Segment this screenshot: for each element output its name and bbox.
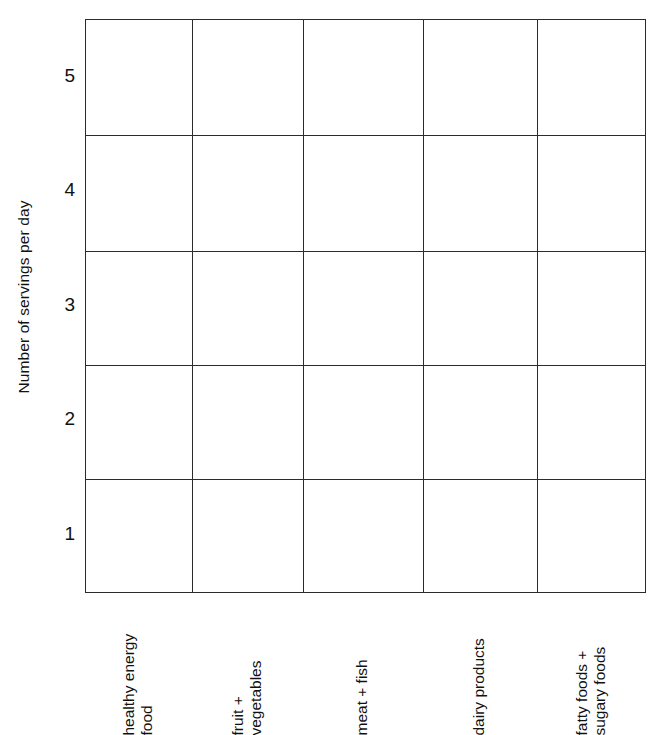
x-category-fruit-vegetables: fruit + vegetables: [191, 594, 302, 735]
x-axis-category-labels: healthy energy food fruit + vegetables m…: [85, 594, 646, 735]
y-axis-title: Number of servings per day: [0, 0, 46, 594]
x-category-line: dairy products: [470, 638, 488, 735]
plot-cell[interactable]: [537, 251, 647, 365]
plot-cell[interactable]: [423, 365, 537, 479]
y-tick-label-3: 3: [51, 295, 75, 314]
x-category-healthy-energy-food: healthy energy food: [85, 594, 191, 735]
y-axis-tick-labels: 5 4 3 2 1: [46, 19, 85, 593]
plot-cell[interactable]: [537, 135, 647, 251]
plot-cell[interactable]: [192, 251, 303, 365]
y-tick-label-1: 1: [51, 524, 75, 543]
plot-cell[interactable]: [537, 479, 647, 594]
x-category-fatty-sugary-foods: fatty foods + sugary foods: [536, 594, 646, 735]
y-tick-label-2: 2: [51, 409, 75, 428]
plot-cell[interactable]: [86, 479, 192, 594]
chart-container: Number of servings per day 5 4 3 2 1: [0, 0, 667, 735]
plot-area[interactable]: [85, 19, 646, 593]
plot-cell[interactable]: [192, 365, 303, 479]
plot-cell[interactable]: [423, 20, 537, 135]
x-category-meat-fish: meat + fish: [302, 594, 422, 735]
x-category-line: vegetables: [247, 660, 265, 735]
plot-cell[interactable]: [192, 479, 303, 594]
plot-cell[interactable]: [303, 135, 423, 251]
plot-cell[interactable]: [86, 365, 192, 479]
y-axis-title-text: Number of servings per day: [14, 201, 32, 394]
plot-cell[interactable]: [192, 20, 303, 135]
x-category-line: food: [138, 705, 156, 735]
y-tick-label-5: 5: [51, 66, 75, 85]
x-category-line: meat + fish: [353, 659, 371, 735]
y-tick-label-4: 4: [51, 180, 75, 199]
plot-cell[interactable]: [423, 251, 537, 365]
plot-cell[interactable]: [303, 365, 423, 479]
x-category-dairy-products: dairy products: [422, 594, 536, 735]
x-category-line: fruit +: [228, 696, 246, 735]
plot-cell[interactable]: [86, 135, 192, 251]
x-category-line: sugary foods: [591, 646, 609, 735]
plot-cell[interactable]: [86, 20, 192, 135]
plot-cell[interactable]: [537, 365, 647, 479]
x-category-line: healthy energy: [120, 633, 138, 735]
plot-cell[interactable]: [303, 251, 423, 365]
plot-cell[interactable]: [192, 135, 303, 251]
plot-cell[interactable]: [303, 479, 423, 594]
plot-cell[interactable]: [423, 135, 537, 251]
plot-cell[interactable]: [86, 251, 192, 365]
plot-cell[interactable]: [423, 479, 537, 594]
plot-cell[interactable]: [537, 20, 647, 135]
plot-cell[interactable]: [303, 20, 423, 135]
x-category-line: fatty foods +: [573, 650, 591, 735]
